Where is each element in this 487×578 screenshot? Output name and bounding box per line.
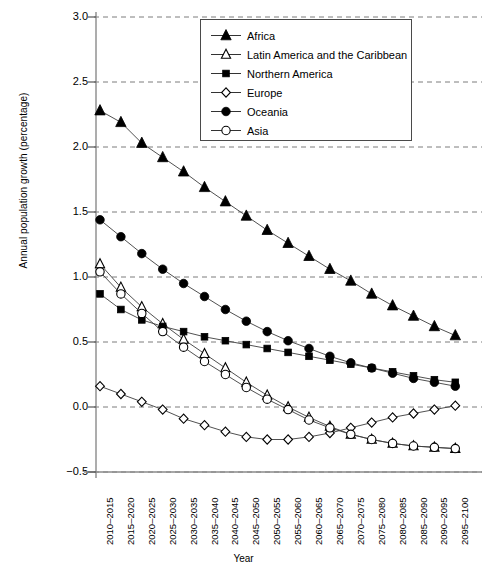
- data-point: [223, 70, 230, 77]
- data-point: [263, 435, 272, 444]
- series-northern-america: [97, 291, 459, 386]
- data-point: [262, 224, 272, 234]
- data-point: [96, 216, 105, 225]
- legend-item-latin-america-and-the-caribbean[interactable]: Latin America and the Caribbean: [209, 45, 411, 64]
- legend-marker-glyph: [209, 102, 243, 121]
- data-point: [97, 291, 104, 298]
- data-point: [409, 442, 417, 450]
- data-point: [430, 378, 439, 387]
- legend-item-europe[interactable]: Europe: [209, 83, 411, 102]
- data-point: [264, 345, 271, 352]
- series-oceania: [96, 216, 460, 391]
- data-point: [243, 341, 250, 348]
- data-point: [179, 343, 187, 351]
- data-point: [346, 275, 356, 285]
- data-point: [388, 369, 397, 378]
- legend-item-africa[interactable]: Africa: [209, 26, 411, 45]
- data-point: [263, 395, 271, 403]
- series-asia: [96, 268, 460, 453]
- data-point: [263, 327, 272, 336]
- data-point: [200, 292, 209, 301]
- data-point: [283, 237, 293, 247]
- data-point: [117, 290, 125, 298]
- data-point: [430, 443, 438, 451]
- data-point: [408, 310, 418, 320]
- data-point: [305, 432, 314, 441]
- data-point: [137, 397, 146, 406]
- series-line: [100, 294, 455, 382]
- data-point: [96, 382, 105, 391]
- data-point: [199, 181, 209, 191]
- data-point: [367, 288, 377, 298]
- legend: AfricaLatin America and the CaribbeanNor…: [200, 19, 412, 141]
- legend-item-asia[interactable]: Asia: [209, 121, 411, 140]
- data-point: [450, 330, 460, 340]
- data-point: [222, 337, 229, 344]
- data-point: [284, 435, 293, 444]
- legend-item-northern-america[interactable]: Northern America: [209, 64, 411, 83]
- legend-marker-filled-square-icon: [209, 64, 243, 83]
- data-point: [430, 405, 439, 414]
- data-point: [368, 435, 376, 443]
- data-point: [284, 336, 293, 345]
- data-point: [118, 306, 125, 313]
- data-point: [304, 250, 314, 260]
- series-line: [100, 264, 455, 449]
- data-point: [305, 416, 313, 424]
- data-point: [138, 249, 147, 258]
- data-point: [221, 49, 230, 58]
- data-point: [222, 88, 231, 97]
- data-point: [326, 352, 335, 361]
- data-point: [347, 359, 356, 368]
- data-point: [305, 344, 314, 353]
- legend-marker-glyph: [209, 26, 243, 45]
- data-point: [451, 444, 459, 452]
- legend-marker-glyph: [209, 45, 243, 64]
- legend-marker-glyph: [209, 121, 243, 140]
- data-point: [180, 328, 187, 335]
- data-point: [429, 320, 439, 330]
- data-point: [388, 439, 396, 447]
- data-point: [158, 405, 167, 414]
- data-point: [285, 349, 292, 356]
- data-point: [116, 116, 126, 126]
- data-point: [158, 151, 168, 161]
- data-point: [241, 210, 251, 220]
- data-point: [347, 430, 355, 438]
- data-point: [306, 353, 313, 360]
- legend-marker-open-triangle-icon: [209, 45, 243, 64]
- data-point: [179, 414, 188, 423]
- series-line: [100, 272, 455, 449]
- data-point: [409, 409, 418, 418]
- data-point: [200, 421, 209, 430]
- series-line: [100, 386, 455, 439]
- legend-label: Asia: [243, 125, 268, 137]
- data-point: [326, 424, 334, 432]
- legend-label: Oceania: [243, 106, 288, 118]
- legend-marker-filled-circle-icon: [209, 102, 243, 121]
- data-point: [222, 126, 230, 134]
- data-point: [201, 333, 208, 340]
- data-point: [95, 259, 104, 268]
- data-point: [242, 432, 251, 441]
- data-point: [220, 196, 230, 206]
- data-point: [158, 265, 167, 274]
- data-point: [221, 427, 230, 436]
- data-point: [367, 418, 376, 427]
- data-point: [200, 348, 209, 357]
- data-point: [179, 334, 188, 343]
- data-point: [451, 401, 460, 410]
- data-point: [242, 317, 251, 326]
- data-point: [221, 370, 229, 378]
- data-point: [200, 357, 208, 365]
- legend-marker-filled-triangle-icon: [209, 26, 243, 45]
- data-point: [137, 137, 147, 147]
- legend-label: Africa: [243, 30, 275, 42]
- series-europe: [96, 382, 460, 445]
- legend-marker-glyph: [209, 64, 243, 83]
- data-point: [116, 389, 125, 398]
- data-point: [178, 166, 188, 176]
- data-point: [117, 232, 126, 241]
- legend-item-oceania[interactable]: Oceania: [209, 102, 411, 121]
- data-point: [222, 107, 231, 116]
